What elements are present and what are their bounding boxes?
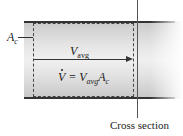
eq-velocity-subscript: avg bbox=[87, 77, 99, 86]
arrow-head-icon bbox=[126, 56, 133, 62]
cross-section-line bbox=[137, 0, 138, 118]
equals-sign: = bbox=[65, 70, 79, 84]
cross-section-label: Cross section bbox=[110, 119, 169, 131]
eq-velocity-symbol: V bbox=[79, 70, 86, 84]
eq-area-subscript: c bbox=[105, 77, 109, 86]
area-subscript: c bbox=[14, 37, 18, 46]
flow-rate-equation: V = VavgAc bbox=[58, 70, 109, 86]
velocity-arrow-shaft bbox=[34, 59, 128, 60]
volume-flow-symbol: V bbox=[58, 70, 65, 84]
area-label: Ac bbox=[7, 30, 18, 46]
velocity-label: Vavg bbox=[70, 44, 89, 60]
area-leader-line bbox=[18, 37, 33, 38]
pipe-fade bbox=[150, 19, 183, 101]
